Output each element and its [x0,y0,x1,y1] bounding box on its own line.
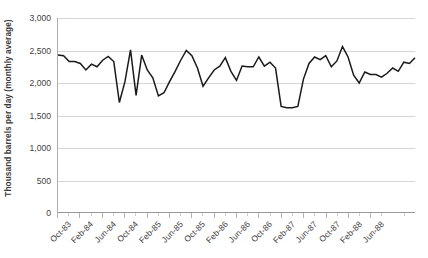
y-axis-tick-label: 1,000 [29,143,51,153]
x-axis-tick [370,213,371,218]
y-axis-tick-label: 500 [37,176,51,186]
x-axis-tick-label: Jun-88 [361,219,387,245]
x-axis-tick-label: Feb-87 [271,219,297,245]
x-axis-tick [348,213,349,218]
x-axis-tick-label: Oct-83 [48,219,73,244]
x-axis-tick [236,213,237,218]
x-axis-minor-tick [113,213,114,216]
y-axis-tick-label: 1,500 [29,111,51,121]
x-axis-tick-label: Jun-84 [92,219,118,245]
x-axis-minor-tick [135,213,136,216]
y-axis-tick-label: 2,500 [29,46,51,56]
x-axis-minor-tick [292,213,293,216]
x-axis-minor-tick [202,213,203,216]
x-axis-minor-tick [270,213,271,216]
y-axis-title: Thousand barrels per day (monthly averag… [0,0,16,216]
x-axis-tick [303,213,304,218]
x-axis-minor-tick [359,213,360,216]
y-axis-title-text: Thousand barrels per day (monthly averag… [3,19,13,196]
x-axis-tick [258,213,259,218]
series-polyline [58,47,415,108]
x-axis-tick-label: Feb-86 [203,219,229,245]
x-axis-tick [147,213,148,218]
x-axis-minor-tick [314,213,315,216]
x-axis-tick-label: Oct-84 [115,219,140,244]
y-axis-tick-label: 2,000 [29,78,51,88]
line-chart: Thousand barrels per day (monthly averag… [0,0,428,258]
x-axis-minor-tick [180,213,181,216]
x-axis-tick [214,213,215,218]
x-axis-tick [57,213,58,218]
x-axis-tick-label: Jun-86 [226,219,252,245]
x-axis-minor-tick [381,213,382,216]
x-axis-tick [281,213,282,218]
x-axis-minor-tick [337,213,338,216]
x-axis-tick [169,213,170,218]
x-axis-tick-label: Jun-85 [159,219,185,245]
y-axis-tick-label: 3,000 [29,13,51,23]
x-axis-minor-tick [225,213,226,216]
x-axis-tick [79,213,80,218]
x-axis-tick [102,213,103,218]
series-line-crude-oil-production [58,18,415,213]
x-axis-tick-label: Jun-87 [294,219,320,245]
plot-area [57,18,415,213]
x-axis-tick-label: Feb-85 [136,219,162,245]
x-axis-tick-label: Oct-85 [182,219,207,244]
x-axis-tick-label: Feb-88 [338,219,364,245]
x-axis-tick [124,213,125,218]
x-axis-minor-tick [247,213,248,216]
y-axis-tick-label: 0 [46,208,51,218]
x-axis-tick-labels: Oct-83Feb-84Jun-84Oct-84Feb-85Jun-85Oct-… [57,219,428,258]
y-axis-tick-labels: 05001,0001,5002,0002,5003,000 [16,0,55,216]
x-axis-tick [326,213,327,218]
x-axis-tick-label: Oct-86 [249,219,274,244]
x-axis-tick-label: Feb-84 [69,219,95,245]
x-axis-minor-tick [404,213,405,216]
x-axis-minor-tick [68,213,69,216]
x-axis-tick-label: Oct-87 [316,219,341,244]
x-axis-minor-tick [91,213,92,216]
x-axis-tick [191,213,192,218]
x-axis-minor-tick [158,213,159,216]
